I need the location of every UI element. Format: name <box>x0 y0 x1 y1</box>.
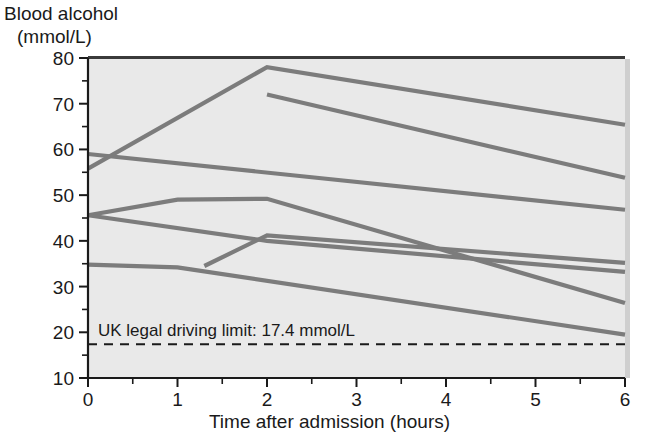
x-axis-title: Time after admission (hours) <box>0 411 659 433</box>
x-tick-label: 3 <box>351 389 362 410</box>
x-tick-label: 4 <box>441 389 452 410</box>
blood-alcohol-chart-figure: Blood alcohol (mmol/L) 1020304050607080 … <box>0 0 659 445</box>
x-tick-label: 1 <box>172 389 183 410</box>
x-tick-label: 6 <box>620 389 631 410</box>
data-series-line <box>88 199 625 303</box>
legal-limit-annotation: UK legal driving limit: 17.4 mmol/L <box>98 321 355 341</box>
y-tick-label: 10 <box>53 368 74 389</box>
data-series-line <box>88 67 625 168</box>
y-tick-label: 30 <box>53 277 74 298</box>
y-tick-label: 50 <box>53 185 74 206</box>
data-series-line <box>267 95 625 178</box>
data-series-group <box>88 67 625 334</box>
chart-plot-svg: 1020304050607080 0123456 <box>0 0 659 445</box>
x-tick-label: 0 <box>83 389 94 410</box>
x-tick-label: 2 <box>262 389 273 410</box>
y-tick-label: 20 <box>53 322 74 343</box>
y-tick-label: 60 <box>53 139 74 160</box>
y-axis-ticks: 1020304050607080 <box>53 48 88 389</box>
x-axis-ticks: 0123456 <box>83 378 631 410</box>
y-tick-label: 80 <box>53 48 74 69</box>
x-tick-label: 5 <box>530 389 541 410</box>
y-tick-label: 40 <box>53 231 74 252</box>
y-tick-label: 70 <box>53 94 74 115</box>
